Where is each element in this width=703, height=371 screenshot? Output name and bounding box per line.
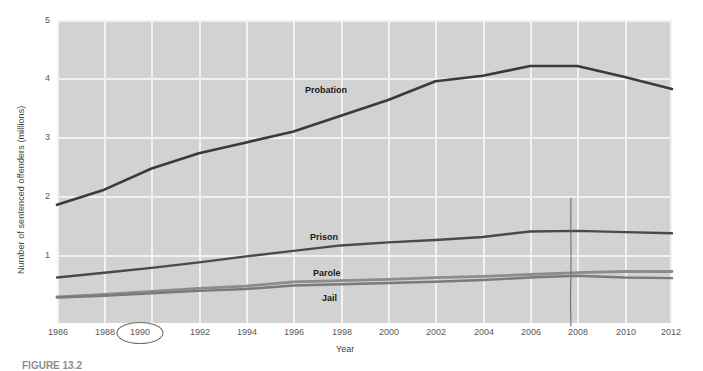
x-axis-title: Year xyxy=(336,344,354,354)
y-axis-title: Number of sentenced offenders (millions) xyxy=(16,106,26,274)
series-label-prison: Prison xyxy=(310,232,338,242)
xtick-1990: 1990 xyxy=(118,327,162,337)
xtick-1992: 1992 xyxy=(178,327,222,337)
xtick-1986: 1986 xyxy=(36,327,80,337)
xtick-2008: 2008 xyxy=(556,327,600,337)
xtick-2000: 2000 xyxy=(367,327,411,337)
xtick-1994: 1994 xyxy=(225,327,269,337)
xtick-2002: 2002 xyxy=(414,327,458,337)
xtick-1996: 1996 xyxy=(272,327,316,337)
figure-caption: FIGURE 13.2 xyxy=(22,360,82,371)
series-label-probation: Probation xyxy=(305,85,347,95)
xtick-1998: 1998 xyxy=(320,327,364,337)
xtick-2006: 2006 xyxy=(509,327,553,337)
ytick-2: 2 xyxy=(28,191,50,201)
xtick-2010: 2010 xyxy=(604,327,648,337)
series-label-jail: Jail xyxy=(322,293,337,303)
xtick-2012: 2012 xyxy=(649,327,693,337)
ytick-4: 4 xyxy=(28,73,50,83)
series-label-parole: Parole xyxy=(313,268,341,278)
ytick-3: 3 xyxy=(28,132,50,142)
xtick-2004: 2004 xyxy=(462,327,506,337)
vertical-line-annotation xyxy=(571,198,572,326)
ytick-5: 5 xyxy=(28,15,50,25)
ytick-1: 1 xyxy=(28,250,50,260)
